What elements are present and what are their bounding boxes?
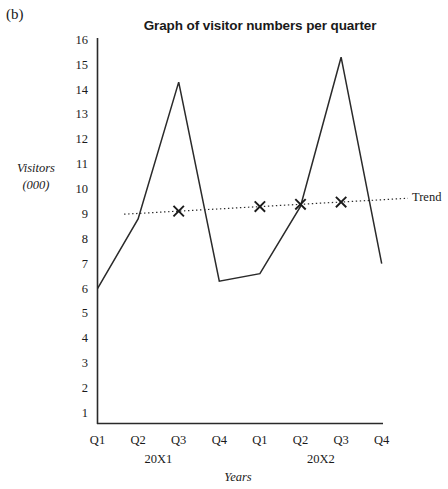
visitors-data-line	[98, 57, 382, 288]
y-axis-tick-label: 9	[64, 208, 88, 221]
y-axis-tick-label: 6	[64, 283, 88, 296]
x-axis-tick-label: Q3	[159, 434, 199, 447]
x-axis-tick-label: Q2	[118, 434, 158, 447]
y-axis-tick-label: 7	[64, 258, 88, 271]
series-trend-markers	[174, 197, 347, 217]
x-axis-tick-label: Q3	[321, 434, 361, 447]
x-axis-group-label: 20X1	[118, 453, 198, 466]
series-trend-line	[124, 198, 408, 214]
y-axis-tick-label: 2	[64, 382, 88, 395]
x-axis-tick-label: Q4	[362, 434, 402, 447]
axes	[97, 38, 383, 424]
y-axis-tick-label: 10	[64, 183, 88, 196]
series-visitors-line	[98, 57, 382, 288]
y-axis-tick-label: 11	[64, 158, 88, 171]
y-axis-tick-label: 5	[64, 307, 88, 320]
x-axis-tick-label: Q1	[78, 434, 118, 447]
x-axis-group-label: 20X2	[281, 453, 361, 466]
y-axis-tick-label: 13	[64, 108, 88, 121]
x-axis-tick-label: Q4	[199, 434, 239, 447]
y-axis-tick-label: 14	[64, 84, 88, 97]
y-axis-tick-label: 1	[64, 407, 88, 420]
trend-x-marker	[174, 206, 184, 216]
y-axis-tick-label: 15	[64, 59, 88, 72]
x-axis-tick-label: Q1	[240, 434, 280, 447]
trend-series-label: Trend	[412, 191, 441, 204]
y-axis-tick-label: 16	[64, 34, 88, 47]
y-axis-tick-label: 12	[64, 133, 88, 146]
x-axis-tick-label: Q2	[281, 434, 321, 447]
y-axis-tick-label: 4	[64, 332, 88, 345]
y-axis-tick-label: 8	[64, 233, 88, 246]
y-axis-tick-label: 3	[64, 357, 88, 370]
trend-data-line	[124, 198, 408, 214]
